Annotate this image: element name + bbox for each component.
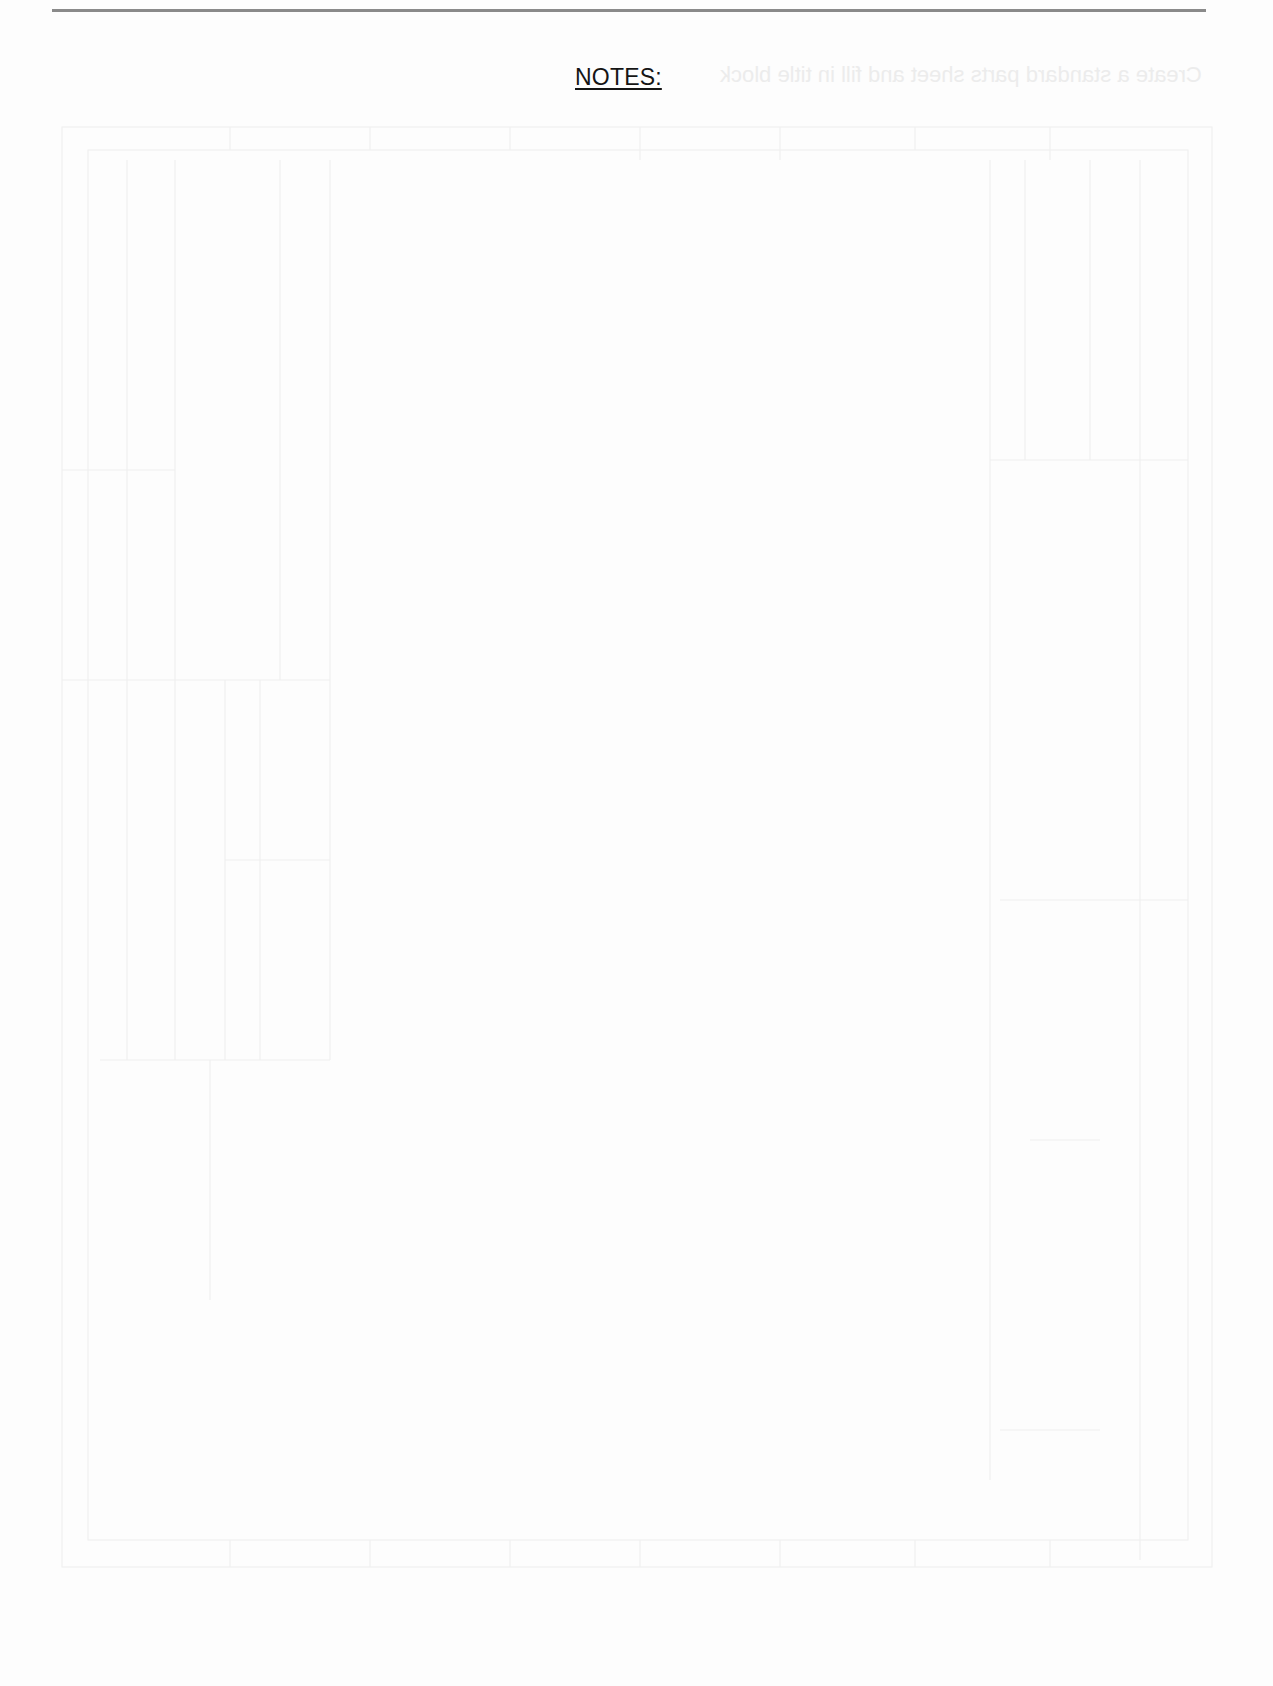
ghost-drawing-frame bbox=[0, 0, 1273, 1686]
document-page: Create a standard parts sheet and fill i… bbox=[0, 0, 1273, 1686]
notes-heading: NOTES: bbox=[575, 64, 662, 90]
bleed-through-ghost: Create a standard parts sheet and fill i… bbox=[0, 0, 1273, 1686]
top-horizontal-rule bbox=[52, 9, 1206, 12]
ghost-mirrored-text: Create a standard parts sheet and fill i… bbox=[720, 62, 1202, 88]
